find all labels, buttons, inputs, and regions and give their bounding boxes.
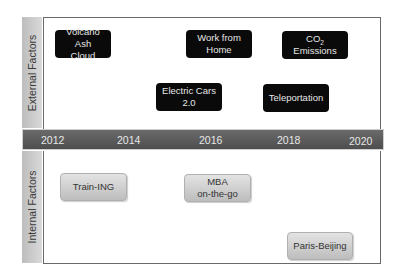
- internal-factors-label: Internal Factors: [22, 151, 42, 263]
- year-label: 2020: [349, 135, 372, 147]
- external-factors-text: External Factors: [26, 34, 38, 110]
- event-co2-emissions: CO2 Emissions: [282, 31, 348, 59]
- event-train-ing: Train-ING: [60, 173, 127, 201]
- year-label: 2012: [41, 134, 64, 146]
- event-electric-cars: Electric Cars 2.0: [156, 83, 222, 111]
- event-text: Emissions: [293, 45, 336, 57]
- event-text: 2.0: [162, 97, 216, 109]
- year-label: 2016: [199, 134, 222, 146]
- year-label: 2018: [277, 134, 300, 146]
- event-text: Cloud: [58, 50, 108, 62]
- year-label: 2014: [117, 134, 140, 146]
- event-text: Teleportation: [269, 92, 323, 104]
- event-text: Paris-Beijing: [293, 240, 346, 252]
- event-text: Electric Cars: [162, 85, 216, 97]
- event-text: Volcano Ash: [58, 26, 108, 50]
- event-text: Home: [197, 44, 241, 56]
- event-text: Train-ING: [73, 181, 114, 193]
- event-teleportation: Teleportation: [263, 84, 329, 112]
- event-volcano-ash-cloud: Volcano Ash Cloud: [55, 30, 111, 58]
- event-text: on-the-go: [197, 188, 238, 200]
- event-text: MBA: [197, 176, 238, 188]
- event-text-co: CO: [306, 33, 320, 44]
- external-factors-label: External Factors: [22, 17, 42, 128]
- event-work-from-home: Work from Home: [186, 30, 252, 58]
- internal-factors-text: Internal Factors: [26, 171, 38, 244]
- event-paris-beijing: Paris-Beijing: [287, 232, 353, 260]
- event-mba-on-the-go: MBA on-the-go: [184, 174, 251, 202]
- event-text: Work from: [197, 32, 241, 44]
- event-text: CO2: [293, 33, 336, 45]
- timeline-bar: 2012 2014 2016 2018 2020: [22, 129, 384, 150]
